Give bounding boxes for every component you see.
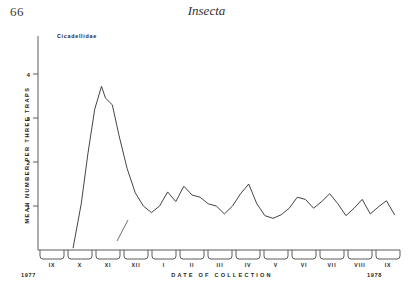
y-tick-label-2: 2 [18,159,30,166]
y-tick-label-1: 1 [18,203,30,210]
y-axis-ticks [33,74,38,206]
x-axis-title: DATE OF COLLECTION [171,272,273,278]
x-tick-label-5: II [190,262,195,268]
y-tick-label-3: 3 [18,115,30,122]
x-tick-label-1: X [78,262,82,268]
x-tick-label-11: VIII [354,262,365,268]
x-tick-label-6: III [216,262,223,268]
year-label-end: 1978 [367,272,382,278]
x-tick-label-7: IV [245,262,252,268]
data-series-line [73,86,394,247]
x-tick-label-2: XI [105,262,112,268]
series-label: Cicadellidae [57,33,97,39]
x-tick-label-12: IX [385,262,392,268]
x-tick-label-3: XII [131,262,140,268]
year-label-start: 1977 [21,272,36,278]
x-axis-month-brackets [40,250,400,259]
chart-canvas [0,22,413,285]
figure-cicadellidae-time-series: Cicadellidae MEAN NUMBER PER THREE TRAPS… [0,22,413,285]
running-head: Insecta [0,3,413,19]
y-tick-label-4: 4 [18,71,30,78]
x-tick-label-8: V [274,262,278,268]
x-tick-label-9: VI [301,262,308,268]
x-tick-label-10: VII [327,262,336,268]
x-tick-label-4: I [163,262,165,268]
x-tick-label-0: IX [49,262,56,268]
label-leader-line [117,220,128,241]
